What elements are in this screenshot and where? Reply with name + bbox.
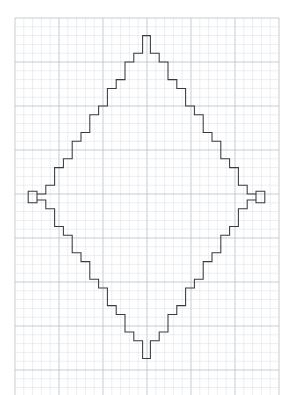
stepped-diamond-motif <box>0 0 292 395</box>
motif-svg <box>0 0 292 395</box>
motif-outline-path <box>28 36 265 359</box>
screenshot-root <box>0 0 292 395</box>
graph-paper-sheet <box>0 0 292 395</box>
